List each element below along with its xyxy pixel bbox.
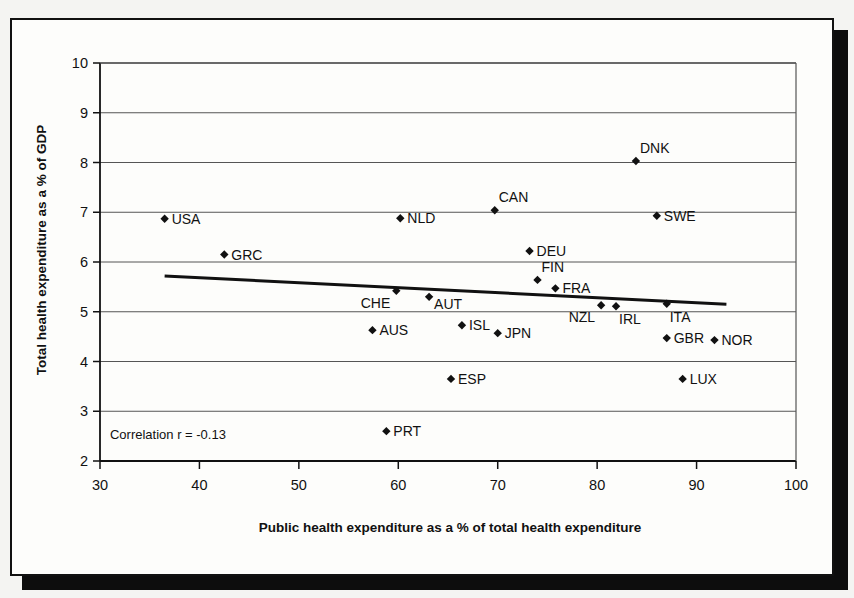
x-tick-label-70: 70 bbox=[490, 477, 506, 493]
marker-DEU bbox=[525, 247, 533, 255]
x-axis-ticks: 30405060708090100 bbox=[92, 461, 808, 493]
marker-ISL bbox=[458, 321, 466, 329]
point-label-GRC: GRC bbox=[231, 247, 262, 263]
marker-GRC bbox=[220, 250, 228, 258]
y-tick-label-7: 7 bbox=[80, 204, 88, 220]
scatter-plot-svg: 2345678910 30405060708090100 USAGRCAUSPR… bbox=[0, 0, 854, 598]
screenshot-root: Total health expenditure as a % of GDP 2… bbox=[0, 0, 854, 598]
data-point: ESP bbox=[447, 371, 486, 387]
point-label-ITA: ITA bbox=[670, 309, 691, 325]
y-tick-label-10: 10 bbox=[72, 55, 88, 71]
marker-FRA bbox=[551, 284, 559, 292]
data-point: LUX bbox=[678, 371, 717, 387]
point-label-SWE: SWE bbox=[664, 208, 696, 224]
point-label-IRL: IRL bbox=[619, 311, 641, 327]
data-point: GRC bbox=[220, 247, 262, 263]
data-point: DNK bbox=[632, 140, 670, 165]
y-tick-label-4: 4 bbox=[80, 354, 88, 370]
x-axis-title: Public health expenditure as a % of tota… bbox=[100, 520, 800, 535]
marker-JPN bbox=[494, 329, 502, 337]
marker-LUX bbox=[678, 375, 686, 383]
data-point: CHE bbox=[361, 287, 401, 311]
point-label-AUS: AUS bbox=[379, 322, 408, 338]
data-point: PRT bbox=[382, 423, 421, 439]
point-label-ISL: ISL bbox=[469, 317, 490, 333]
y-axis-ticks: 2345678910 bbox=[72, 55, 100, 469]
point-label-PRT: PRT bbox=[393, 423, 421, 439]
y-tick-label-8: 8 bbox=[80, 155, 88, 171]
gridlines bbox=[100, 63, 796, 461]
x-tick-label-50: 50 bbox=[291, 477, 307, 493]
data-point: FRA bbox=[551, 280, 591, 296]
data-point: ISL bbox=[458, 317, 490, 333]
data-point: NZL bbox=[569, 301, 606, 325]
x-tick-label-40: 40 bbox=[191, 477, 207, 493]
y-tick-label-9: 9 bbox=[80, 105, 88, 121]
marker-GBR bbox=[663, 334, 671, 342]
point-label-DNK: DNK bbox=[640, 140, 670, 156]
data-point: FIN bbox=[533, 259, 564, 284]
data-point: CAN bbox=[491, 189, 529, 214]
point-label-FRA: FRA bbox=[562, 280, 591, 296]
marker-CAN bbox=[491, 206, 499, 214]
x-tick-label-80: 80 bbox=[589, 477, 605, 493]
point-label-NZL: NZL bbox=[569, 309, 596, 325]
point-label-AUT: AUT bbox=[434, 296, 462, 312]
data-point: NOR bbox=[710, 332, 752, 348]
marker-ESP bbox=[447, 375, 455, 383]
point-label-USA: USA bbox=[172, 211, 201, 227]
marker-NZL bbox=[597, 301, 605, 309]
x-tick-label-60: 60 bbox=[390, 477, 406, 493]
y-tick-label-6: 6 bbox=[80, 254, 88, 270]
point-label-CHE: CHE bbox=[361, 295, 391, 311]
y-tick-label-2: 2 bbox=[80, 453, 88, 469]
data-point: GBR bbox=[663, 330, 705, 346]
point-label-GBR: GBR bbox=[674, 330, 704, 346]
marker-USA bbox=[160, 215, 168, 223]
point-label-DEU: DEU bbox=[537, 243, 567, 259]
x-tick-label-100: 100 bbox=[784, 477, 808, 493]
data-point: DEU bbox=[525, 243, 566, 259]
marker-AUT bbox=[425, 293, 433, 301]
correlation-annotation: Correlation r = -0.13 bbox=[110, 427, 226, 442]
marker-PRT bbox=[382, 427, 390, 435]
marker-NLD bbox=[396, 214, 404, 222]
marker-IRL bbox=[612, 302, 620, 310]
marker-AUS bbox=[368, 326, 376, 334]
data-point: USA bbox=[160, 211, 201, 227]
marker-NOR bbox=[710, 336, 718, 344]
data-point: IRL bbox=[612, 302, 641, 327]
point-label-FIN: FIN bbox=[541, 259, 564, 275]
point-label-NOR: NOR bbox=[721, 332, 752, 348]
point-label-LUX: LUX bbox=[690, 371, 718, 387]
chart-container: Total health expenditure as a % of GDP 2… bbox=[0, 0, 854, 598]
data-point: JPN bbox=[494, 325, 532, 341]
data-point: AUT bbox=[425, 293, 463, 312]
point-label-NLD: NLD bbox=[407, 210, 435, 226]
chart-annotation: Correlation r = -0.13 bbox=[110, 427, 226, 442]
data-point: AUS bbox=[368, 322, 408, 338]
marker-DNK bbox=[632, 157, 640, 165]
point-label-CAN: CAN bbox=[499, 189, 529, 205]
x-tick-label-30: 30 bbox=[92, 477, 108, 493]
x-tick-label-90: 90 bbox=[689, 477, 705, 493]
data-point: SWE bbox=[653, 208, 696, 224]
marker-SWE bbox=[653, 212, 661, 220]
marker-FIN bbox=[533, 276, 541, 284]
y-tick-label-3: 3 bbox=[80, 403, 88, 419]
point-label-ESP: ESP bbox=[458, 371, 486, 387]
point-label-JPN: JPN bbox=[505, 325, 531, 341]
y-tick-label-5: 5 bbox=[80, 304, 88, 320]
